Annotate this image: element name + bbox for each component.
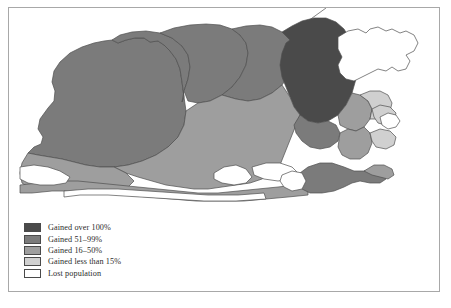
legend-item: Gained 16–50% xyxy=(24,245,194,256)
legend-item: Gained 51–99% xyxy=(24,233,194,244)
legend-label: Gained less than 15% xyxy=(48,256,121,267)
legend-swatch-gained-less-15 xyxy=(24,257,41,266)
legend-label: Lost population xyxy=(48,268,101,279)
legend-label: Gained 51–99% xyxy=(48,234,102,245)
legend-swatch-gained-51-99 xyxy=(24,235,41,244)
region-east-cluster-c xyxy=(338,127,372,159)
legend-label: Gained 16–50% xyxy=(48,245,102,256)
legend-label: Gained over 100% xyxy=(48,222,111,233)
legend-swatch-gained-over-100 xyxy=(24,223,41,232)
legend-swatch-lost-population xyxy=(24,269,41,278)
legend-swatch-gained-16-50 xyxy=(24,246,41,255)
region-west-large xyxy=(28,38,186,167)
legend-item: Gained less than 15% xyxy=(24,256,194,267)
region-north-east-outer xyxy=(338,27,418,81)
legend-item: Lost population xyxy=(24,268,194,279)
region-east-small-light-b xyxy=(370,129,396,149)
map-figure: Gained over 100% Gained 51–99% Gained 16… xyxy=(0,0,451,308)
map-legend: Gained over 100% Gained 51–99% Gained 16… xyxy=(24,222,194,279)
region-east-white-island xyxy=(380,113,400,129)
legend-item: Gained over 100% xyxy=(24,222,194,233)
